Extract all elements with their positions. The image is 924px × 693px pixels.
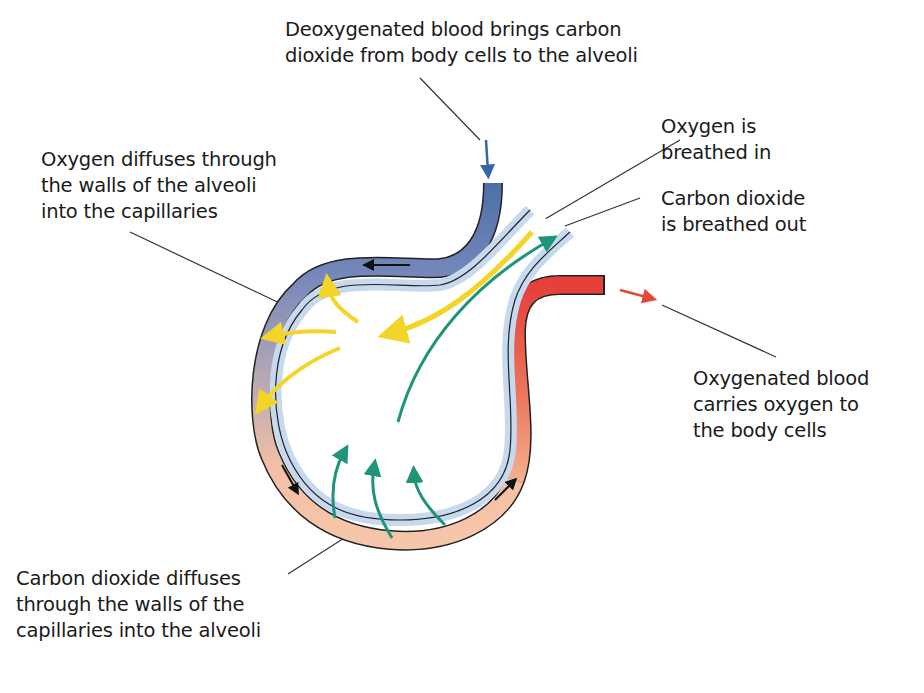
label-co2-out: Carbon dioxide is breathed out — [661, 186, 806, 238]
label-oxygenated-blood: Oxygenated blood carries oxygen to the b… — [693, 366, 869, 444]
label-co2-diffuses: Carbon dioxide diffuses through the wall… — [16, 566, 261, 644]
label-oxygen-in: Oxygen is breathed in — [661, 114, 771, 166]
label-oxygen-diffuses: Oxygen diffuses through the walls of the… — [41, 147, 277, 225]
label-deoxygenated-blood: Deoxygenated blood brings carbon dioxide… — [285, 17, 638, 69]
